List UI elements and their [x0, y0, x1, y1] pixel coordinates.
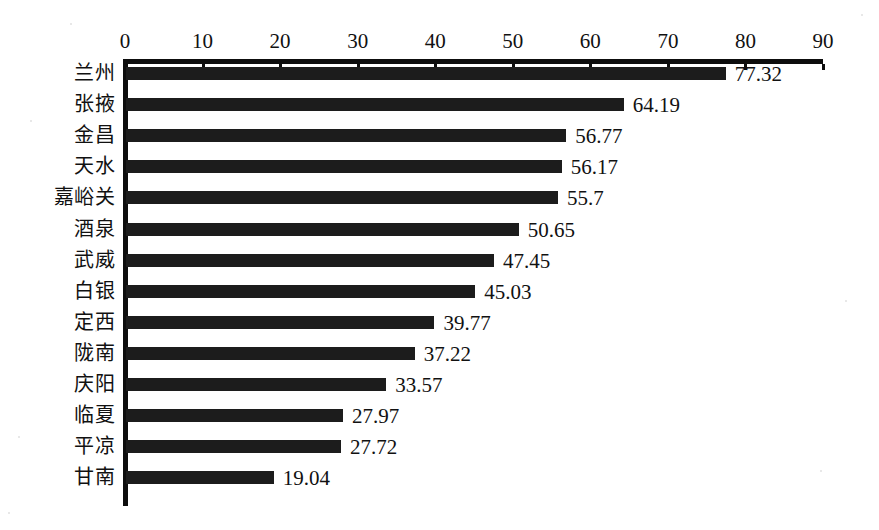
bar-row: 武威47.45: [0, 254, 879, 285]
category-label: 兰州: [0, 63, 115, 83]
bar-row: 酒泉50.65: [0, 223, 879, 254]
scan-speck: [861, 14, 863, 16]
bar: [126, 254, 494, 267]
bar-value-label: 47.45: [503, 251, 550, 272]
bar: [126, 98, 624, 111]
bar-row: 嘉峪关55.7: [0, 191, 879, 222]
bar-row: 白银45.03: [0, 285, 879, 316]
category-label: 张掖: [0, 94, 115, 114]
bar: [126, 409, 343, 422]
bar: [126, 129, 566, 142]
category-label: 金昌: [0, 125, 115, 145]
bar: [126, 378, 386, 391]
bar-value-label: 50.65: [528, 220, 575, 241]
bar-value-label: 27.97: [352, 406, 399, 427]
category-label: 陇南: [0, 343, 115, 363]
bar-value-label: 45.03: [484, 282, 531, 303]
scan-speck: [820, 470, 822, 472]
bar: [126, 285, 475, 298]
x-axis-tick-label: 70: [643, 28, 693, 54]
bar-row: 甘南19.04: [0, 471, 879, 502]
scan-speck: [8, 512, 10, 514]
category-label: 甘南: [0, 467, 115, 487]
bar: [126, 316, 434, 329]
bar: [126, 191, 558, 204]
x-axis-tick-label: 30: [333, 28, 383, 54]
bar-value-label: 56.17: [571, 157, 618, 178]
bar-row: 兰州77.32: [0, 67, 879, 98]
scan-speck: [845, 300, 847, 302]
bar: [126, 223, 519, 236]
scan-speck: [30, 120, 32, 122]
category-label: 武威: [0, 250, 115, 270]
category-label: 庆阳: [0, 374, 115, 394]
category-label: 酒泉: [0, 219, 115, 239]
category-label: 天水: [0, 156, 115, 176]
x-axis-line: [123, 59, 823, 64]
x-axis-tick-label: 40: [410, 28, 460, 54]
x-axis-tick-label: 0: [100, 28, 150, 54]
category-label: 平凉: [0, 436, 115, 456]
x-axis-tick-label: 50: [488, 28, 538, 54]
bar-value-label: 64.19: [633, 95, 680, 116]
bar-row: 张掖64.19: [0, 98, 879, 129]
bar: [126, 67, 726, 80]
bar-chart: 0102030405060708090 兰州77.32张掖64.19金昌56.7…: [0, 0, 879, 530]
bar-row: 金昌56.77: [0, 129, 879, 160]
bar-value-label: 39.77: [443, 313, 490, 334]
bar-row: 平凉27.72: [0, 440, 879, 471]
bar: [126, 160, 562, 173]
category-label: 临夏: [0, 405, 115, 425]
bar-row: 临夏27.97: [0, 409, 879, 440]
bar: [126, 347, 415, 360]
x-axis-tick-label: 80: [720, 28, 770, 54]
bar-value-label: 77.32: [735, 64, 782, 85]
category-label: 定西: [0, 312, 115, 332]
x-axis-tick-label: 20: [255, 28, 305, 54]
scan-speck: [18, 436, 20, 438]
bar: [126, 471, 274, 484]
scan-speck: [95, 330, 97, 332]
category-label: 嘉峪关: [0, 187, 115, 207]
category-label: 白银: [0, 281, 115, 301]
bar-value-label: 37.22: [424, 344, 471, 365]
bar-value-label: 33.57: [395, 375, 442, 396]
x-axis-tick-label: 90: [798, 28, 848, 54]
x-axis-tick-label: 60: [565, 28, 615, 54]
scan-speck: [70, 23, 72, 25]
x-axis-tick-label: 10: [178, 28, 228, 54]
bar-row: 天水56.17: [0, 160, 879, 191]
bar-value-label: 56.77: [575, 126, 622, 147]
bar-value-label: 19.04: [283, 468, 330, 489]
bar: [126, 440, 341, 453]
bar-value-label: 27.72: [350, 437, 397, 458]
bar-value-label: 55.7: [567, 188, 604, 209]
bar-row: 庆阳33.57: [0, 378, 879, 409]
